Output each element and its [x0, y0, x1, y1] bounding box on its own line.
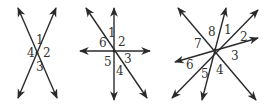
intersection-point [36, 52, 39, 55]
figure-three-lines: 123456 [80, 8, 150, 100]
intersection-point [214, 49, 217, 52]
figure-four-lines: 81234567 [172, 8, 258, 100]
angle-label: 3 [231, 49, 239, 63]
angle-label: 3 [36, 60, 44, 74]
double-arrow-line [178, 8, 256, 100]
angle-label: 1 [108, 26, 116, 40]
angle-label: 1 [36, 33, 44, 47]
intersection-point [113, 50, 116, 53]
angle-label: 7 [194, 37, 202, 51]
figure-two-lines: 1234 [18, 8, 57, 98]
angle-label: 3 [124, 52, 132, 66]
angle-label: 2 [43, 46, 51, 60]
angle-label: 2 [240, 30, 248, 44]
angle-label: 5 [104, 55, 112, 69]
angle-label: 6 [99, 36, 107, 50]
double-arrow-line [172, 10, 258, 98]
angle-label: 1 [224, 23, 232, 37]
angle-label: 2 [118, 35, 126, 49]
angle-label: 4 [116, 64, 124, 78]
angle-label: 4 [27, 46, 35, 60]
double-arrow-line [86, 8, 147, 98]
angle-label: 5 [201, 67, 209, 81]
double-arrow-line [202, 8, 226, 100]
angle-diagrams: 1234 123456 81234567 [0, 0, 275, 108]
angle-label: 6 [186, 58, 194, 72]
angle-label: 4 [216, 63, 224, 77]
angle-label: 8 [208, 25, 216, 39]
